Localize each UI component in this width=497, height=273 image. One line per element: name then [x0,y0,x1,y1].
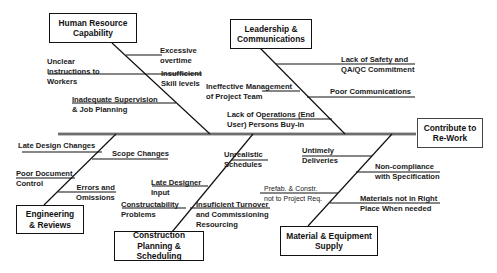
cause-label: Prefab. & Constr.not to Project Req. [264,184,322,204]
cause-label: Late DesignerInput [151,178,201,198]
cause-label: InsufficientSkill levels [161,69,202,89]
category-title: Leadership & [244,24,297,34]
cause-label: UntimelyDeliveries [302,146,338,166]
effect-label: Re-Work [433,133,467,143]
category-title: Communications [237,34,305,44]
cause-label: Late Design Changes [18,141,95,151]
cause-label: Poor Communications [330,87,411,97]
cause-label: Ineffective Managementof Project Team [206,82,292,102]
category-title: Supply [315,241,343,251]
cause-label: Inadequate Supervision& Job Planning [72,95,158,115]
category-title: Engineering [26,209,74,219]
cause-label: Non-compliancewith Specification [375,162,440,182]
category-material: Material & EquipmentSupply [280,226,378,256]
category-title: Planning & Scheduling [136,241,181,262]
cause-label: UnrealisticSchedules [224,150,263,170]
cause-label: Errors andOmissions [76,183,115,203]
effect-box: Contribute toRe-Work [417,118,483,148]
cause-label: UnclearInstructions toWorkers [47,57,100,87]
cause-label: Scope Changes [112,149,169,159]
category-title: & Reviews [29,220,71,230]
category-engineering: Engineering& Reviews [16,205,84,234]
cause-label: Lack of Operations (EndUser) Persons Buy… [227,110,315,130]
category-title: Capability [73,28,113,38]
effect-label: Contribute to [424,123,477,133]
category-leadership: Leadership &Communications [230,19,312,49]
category-title: Material & Equipment [286,231,372,241]
cause-label: Insuficient Turnoverand CommissioningRes… [196,200,269,230]
category-title: Human Resource [59,18,128,28]
category-human-resource: Human ResourceCapability [49,13,137,43]
cause-label: Poor DocumentControl [16,169,73,189]
cause-label: Lack of Safety andQA/QC Commitment [341,55,414,75]
cause-label: ConstructabilityProblems [121,200,179,220]
category-construction: ConstructionPlanning & Scheduling [114,231,204,261]
cause-label: Excessiveovertime [160,46,197,66]
cause-label: Materials not in RightPlace When needed [360,194,437,214]
category-title: Construction [133,230,185,240]
